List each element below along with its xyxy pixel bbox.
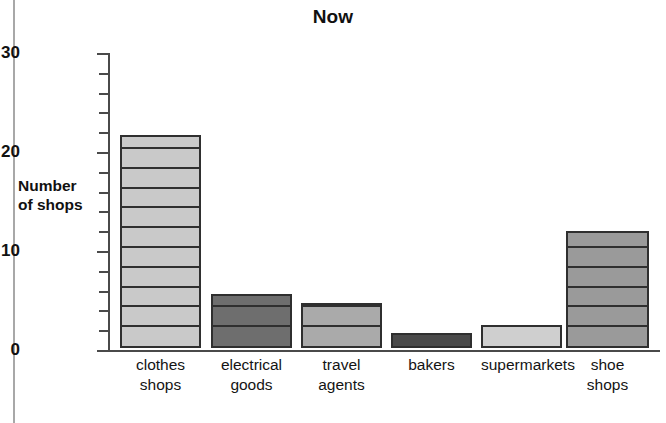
y-tick-28 [99, 73, 108, 75]
page-margin-rule [13, 0, 15, 423]
y-tick-16 [99, 192, 108, 194]
y-axis-line [108, 53, 110, 352]
bar-rule [568, 305, 647, 307]
x-label-line: shops [566, 375, 649, 395]
bar-rule [483, 325, 560, 327]
y-tick-label-10: 10 [0, 242, 20, 259]
bar-rule [122, 266, 199, 268]
chart-title: Now [0, 6, 666, 28]
plot-area: 0102030 clothesshopselectricalgoodstrave… [108, 53, 660, 350]
bar-rule [122, 147, 199, 149]
bar-travel-agents[interactable] [301, 303, 382, 348]
bar-rule [568, 266, 647, 268]
bar-bakers[interactable] [391, 333, 472, 348]
y-tick-30 [97, 53, 108, 55]
bar-rule [122, 286, 199, 288]
y-axis-label-line-1: Number [18, 176, 104, 195]
y-tick-8 [99, 271, 108, 273]
x-label-shoe-shops: shoeshops [566, 355, 649, 395]
x-label-electrical-goods: electricalgoods [211, 355, 292, 395]
bar-rule [303, 305, 380, 307]
bar-rule [122, 206, 199, 208]
x-label-line: shops [120, 375, 201, 395]
bar-rule [213, 305, 290, 307]
y-tick-20 [97, 152, 108, 154]
y-tick-4 [99, 310, 108, 312]
y-tick-2 [99, 330, 108, 332]
bar-rule [303, 325, 380, 327]
x-label-supermarkets: supermarkets [481, 355, 562, 375]
x-label-line: shoe [566, 355, 649, 375]
y-tick-label-0: 0 [0, 341, 20, 358]
bar-rule [122, 246, 199, 248]
x-axis-line [108, 350, 660, 352]
x-label-line: supermarkets [481, 355, 562, 375]
bar-rule [122, 226, 199, 228]
bar-rule [568, 286, 647, 288]
bar-rule [122, 325, 199, 327]
bar-rule [568, 325, 647, 327]
y-tick-0 [97, 350, 108, 352]
bar-rule [122, 187, 199, 189]
x-label-line: travel [301, 355, 382, 375]
bar-supermarkets[interactable] [481, 325, 562, 348]
y-tick-18 [99, 172, 108, 174]
x-label-line: electrical [211, 355, 292, 375]
y-tick-26 [99, 93, 108, 95]
y-tick-label-30: 30 [0, 44, 20, 61]
bar-rule [122, 305, 199, 307]
y-axis-label-line-2: of shops [18, 195, 104, 214]
bar-rule [568, 246, 647, 248]
x-label-travel-agents: travelagents [301, 355, 382, 395]
x-label-line: clothes [120, 355, 201, 375]
y-tick-10 [97, 251, 108, 253]
y-tick-24 [99, 112, 108, 114]
x-label-clothes-shops: clothesshops [120, 355, 201, 395]
bar-shoe-shops[interactable] [566, 231, 649, 348]
y-axis-label: Number of shops [18, 176, 104, 215]
x-label-line: bakers [391, 355, 472, 375]
bar-rule [213, 325, 290, 327]
y-tick-22 [99, 132, 108, 134]
y-tick-14 [99, 211, 108, 213]
chart-page: Now Number of shops 0102030 clothesshops… [0, 0, 666, 423]
bar-electrical-goods[interactable] [211, 294, 292, 348]
bar-clothes-shops[interactable] [120, 135, 201, 348]
x-label-line: agents [301, 375, 382, 395]
y-tick-6 [99, 291, 108, 293]
x-label-line: goods [211, 375, 292, 395]
x-label-bakers: bakers [391, 355, 472, 375]
y-tick-label-20: 20 [0, 143, 20, 160]
y-tick-12 [99, 231, 108, 233]
bar-rule [122, 167, 199, 169]
